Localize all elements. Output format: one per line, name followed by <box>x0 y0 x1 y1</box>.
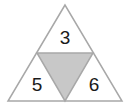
left-cell-number: 5 <box>32 74 43 95</box>
right-cell-number: 6 <box>89 74 100 95</box>
triangle-diagram: 3 5 6 <box>0 0 126 109</box>
top-cell-number: 3 <box>60 27 71 48</box>
